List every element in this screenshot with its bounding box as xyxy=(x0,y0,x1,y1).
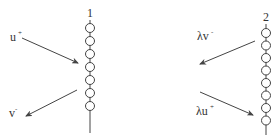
arrow-label: λv xyxy=(197,29,209,43)
arrow-line xyxy=(26,90,77,116)
arrow-lambda-u-plus: λu+ xyxy=(196,92,253,118)
arrow-label: u xyxy=(10,30,16,44)
bead-circle xyxy=(86,102,95,111)
chain-label: 2 xyxy=(263,10,269,24)
bead-chains: 12 xyxy=(86,6,271,135)
arrow-label-superscript: - xyxy=(211,28,214,36)
arrow-label: λu xyxy=(196,104,208,118)
arrow-label-superscript: + xyxy=(210,103,214,111)
bead-circle xyxy=(86,89,95,98)
chain-2: 2 xyxy=(262,10,271,135)
bead-circle xyxy=(262,116,271,125)
bead-circle xyxy=(262,29,271,38)
chain-1: 1 xyxy=(86,6,95,133)
bead-circle xyxy=(86,37,95,46)
arrow-line xyxy=(200,92,253,115)
bead-circle xyxy=(86,76,95,85)
bead-circle xyxy=(86,63,95,72)
wave-arrows: u+v-λv-λu+ xyxy=(9,28,255,120)
bead-circle xyxy=(262,66,271,75)
arrow-u-plus: u+ xyxy=(10,29,78,63)
arrow-lambda-v-minus: λv- xyxy=(197,28,255,64)
arrow-line xyxy=(22,38,78,63)
bead-circle xyxy=(262,91,271,100)
bead-circle xyxy=(262,54,271,63)
bead-circle xyxy=(262,79,271,88)
bead-circle xyxy=(86,50,95,59)
arrow-v-minus: v- xyxy=(9,90,77,120)
arrow-label-superscript: - xyxy=(15,105,18,113)
scattering-diagram: 12 u+v-λv-λu+ xyxy=(0,0,280,139)
bead-circle xyxy=(86,24,95,33)
bead-circle xyxy=(262,104,271,113)
arrow-label-superscript: + xyxy=(18,29,22,37)
chain-label: 1 xyxy=(87,6,93,20)
arrow-line xyxy=(200,41,255,64)
bead-circle xyxy=(262,41,271,50)
